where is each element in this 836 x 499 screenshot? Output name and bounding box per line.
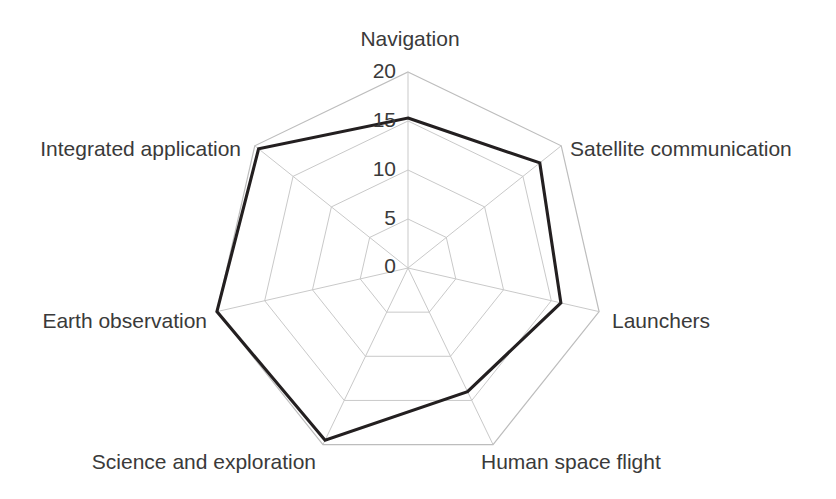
category-label-human-space-flight: Human space flight	[481, 450, 661, 473]
tick-label-0: 0	[384, 254, 396, 277]
radar-chart-canvas: 20 15 10 5 0 Navigation Satellite commun…	[0, 0, 836, 499]
tick-label-5: 5	[384, 206, 396, 229]
spoke-2	[408, 268, 599, 312]
category-label-science-and-exploration: Science and exploration	[92, 450, 316, 473]
category-label-integrated-application: Integrated application	[40, 137, 241, 160]
category-label-launchers: Launchers	[612, 309, 710, 332]
category-axis-labels: Navigation Satellite communication Launc…	[40, 27, 792, 473]
radial-axis-tick-labels: 20 15 10 5 0	[373, 59, 396, 277]
spoke-5	[217, 268, 408, 312]
category-label-satellite-communication: Satellite communication	[570, 137, 792, 160]
spoke-1	[408, 146, 561, 268]
category-label-earth-observation: Earth observation	[42, 309, 207, 332]
tick-label-15: 15	[373, 108, 396, 131]
radar-chart: 20 15 10 5 0 Navigation Satellite commun…	[0, 0, 836, 499]
category-label-navigation: Navigation	[360, 27, 459, 50]
tick-label-10: 10	[373, 157, 396, 180]
tick-label-20: 20	[373, 59, 396, 82]
